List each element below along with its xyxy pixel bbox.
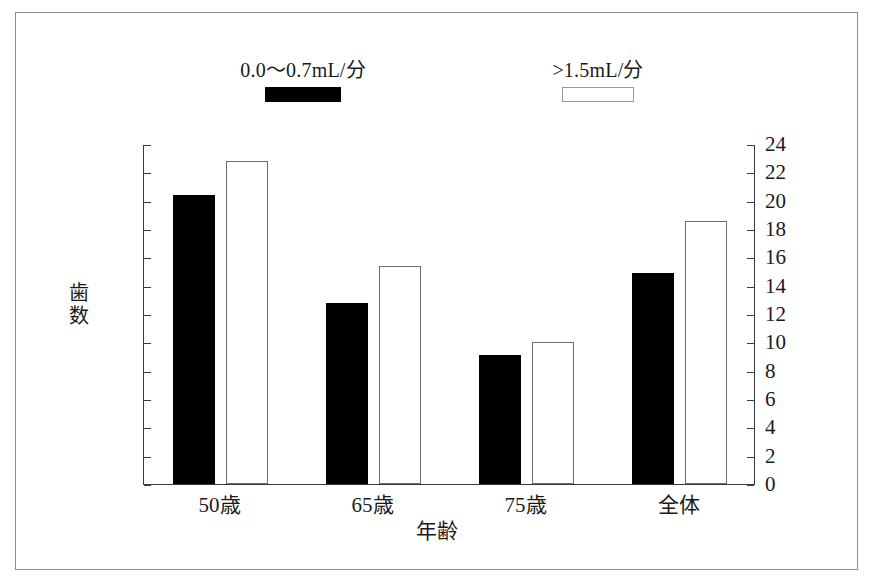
legend-item-light: >1.5mL/分 [498,58,698,102]
y-tick-4-l [144,428,151,429]
y-tick-10-r [747,343,754,344]
y-tick-20-r [747,202,754,203]
y-tick-label-right-6: 6 [765,389,799,410]
y-tick-20-l [144,202,151,203]
y-tick-16-r [747,258,754,259]
y-tick-18-r [747,230,754,231]
figure-container: 0.0〜0.7mL/分 >1.5mL/分 歯 数 024681012141618… [0,0,873,582]
legend-item-dark: 0.0〜0.7mL/分 [203,58,403,102]
bar-全体-series2 [685,221,727,485]
y-tick-16-l [144,258,151,259]
bar-50歳-series2 [226,161,268,484]
legend-swatch-light [562,87,634,102]
y-tick-14-l [144,287,151,288]
legend-label-dark: 0.0〜0.7mL/分 [203,58,403,82]
y-tick-label-right-18: 18 [765,219,799,240]
plot-area [143,145,755,485]
bar-65歳-series2 [379,266,421,484]
x-axis-label-全体: 全体 [602,492,755,518]
y-tick-4-r [747,428,754,429]
y-tick-0-r [747,485,754,486]
y-axis-title: 歯 数 [66,282,92,328]
y-tick-label-right-8: 8 [765,361,799,382]
legend-label-light: >1.5mL/分 [498,58,698,82]
y-tick-2-r [747,457,754,458]
x-axis-label-75歳: 75歳 [449,492,602,518]
legend-swatch-dark [265,87,341,102]
x-axis-title: 年齢 [0,518,873,544]
y-tick-label-right-16: 16 [765,247,799,268]
y-tick-14-r [747,287,754,288]
y-tick-label-right-24: 24 [765,134,799,155]
y-tick-10-l [144,343,151,344]
y-axis-title-char-1: 歯 [66,282,92,305]
y-axis-labels-right: 024681012141618202224 [765,145,799,485]
y-tick-22-r [747,173,754,174]
y-tick-label-right-22: 22 [765,162,799,183]
y-tick-label-right-2: 2 [765,446,799,467]
y-tick-label-right-14: 14 [765,276,799,297]
y-tick-18-l [144,230,151,231]
y-tick-12-l [144,315,151,316]
bar-全体-series1 [632,273,674,484]
bar-50歳-series1 [173,195,215,484]
y-tick-8-l [144,372,151,373]
y-tick-label-right-4: 4 [765,417,799,438]
y-tick-8-r [747,372,754,373]
y-axis-ticks-right [747,145,754,484]
bar-75歳-series1 [479,355,521,484]
bar-65歳-series1 [326,303,368,484]
y-tick-2-l [144,457,151,458]
y-tick-24-l [144,145,151,146]
y-tick-24-r [747,145,754,146]
chart-legend: 0.0〜0.7mL/分 >1.5mL/分 [143,58,755,116]
plot-wrapper [143,145,755,485]
y-tick-6-r [747,400,754,401]
y-tick-22-l [144,173,151,174]
y-tick-label-right-10: 10 [765,332,799,353]
y-tick-6-l [144,400,151,401]
y-tick-label-right-20: 20 [765,191,799,212]
bar-75歳-series2 [532,342,574,484]
y-axis-title-char-2: 数 [66,305,92,328]
y-tick-0-l [144,485,151,486]
y-tick-label-right-12: 12 [765,304,799,325]
y-tick-12-r [747,315,754,316]
x-axis-label-50歳: 50歳 [143,492,296,518]
y-axis-ticks-left [144,145,151,484]
y-tick-label-right-0: 0 [765,474,799,495]
x-axis-label-65歳: 65歳 [296,492,449,518]
